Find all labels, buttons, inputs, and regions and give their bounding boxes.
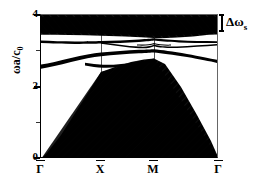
gap-marker-arrow — [219, 14, 224, 32]
x-tick-symbol: M — [140, 163, 166, 176]
y-tick-label-2: 2 — [20, 80, 38, 91]
band-structure-figure: ωa/c0 0 2 4 — [0, 0, 264, 184]
gap-label-sub: s — [244, 22, 248, 32]
y-axis-title-sub: 0 — [16, 46, 25, 50]
x-tick-label-x: X — [87, 160, 113, 176]
x-tick-symbol: Γ — [205, 163, 231, 176]
y-axis-title-main: ωa/c — [9, 50, 23, 73]
gap-label-main: Δω — [226, 14, 244, 29]
x-tick-label-m: M — [140, 160, 166, 176]
x-tick-label-gamma-right: Γ — [205, 160, 231, 176]
plot-area — [40, 14, 218, 158]
y-tick-label-4: 4 — [20, 8, 38, 19]
surface-band-lowest — [41, 15, 218, 158]
x-tick-label-gamma-left: Γ — [27, 160, 53, 176]
x-tick-symbol: X — [87, 163, 113, 176]
gap-label: Δωs — [226, 15, 247, 32]
x-tick-symbol: Γ — [27, 163, 53, 176]
